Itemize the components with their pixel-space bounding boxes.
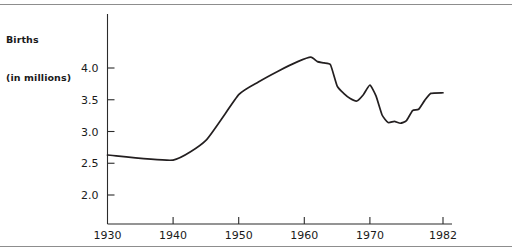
y-axis-tick-group: 2.02.53.03.54.0 (81, 62, 115, 202)
births-series-line (108, 57, 444, 160)
y-axis-tick-label: 4.0 (81, 62, 99, 75)
y-axis-tick-label: 2.5 (81, 157, 99, 170)
y-axis-tick-label: 3.5 (81, 94, 99, 107)
x-axis-tick-label: 1982 (429, 229, 457, 242)
y-axis-tick-label: 3.0 (81, 126, 99, 139)
x-axis-tick-label: 1970 (356, 229, 384, 242)
x-axis-tick-group: 193019401950196019701982 (94, 217, 458, 242)
x-axis-tick-label: 1950 (225, 229, 253, 242)
x-axis-tick-label: 1960 (290, 229, 318, 242)
x-axis-tick-label: 1930 (94, 229, 122, 242)
chart-figure: Births (in millions) 2.02.53.03.54.0 193… (0, 0, 512, 252)
y-axis-tick-label: 2.0 (81, 189, 99, 202)
x-axis-tick-label: 1940 (159, 229, 187, 242)
line-chart-plot: 2.02.53.03.54.0 193019401950196019701982 (0, 0, 512, 252)
